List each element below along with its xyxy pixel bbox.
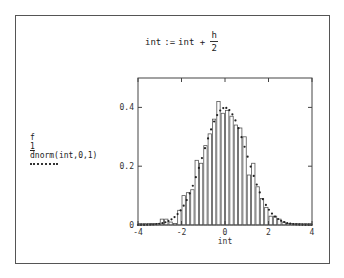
y-tick-label: 0	[129, 221, 134, 230]
curve-dot	[216, 114, 218, 116]
curve-dot	[201, 157, 203, 159]
curve-dot	[247, 156, 249, 158]
histogram-bar	[182, 196, 185, 225]
histogram-bar	[269, 216, 272, 225]
curve-dot	[222, 107, 224, 109]
curve-dot	[234, 119, 236, 121]
histogram-bar	[230, 116, 233, 225]
curve-dot	[231, 113, 233, 115]
curve-dot	[173, 216, 175, 218]
histogram-chart[interactable]: -4-202400.20.4 int	[0, 0, 344, 278]
curve-dot	[283, 221, 285, 223]
curve-dot	[170, 218, 172, 220]
histogram-bar	[234, 125, 237, 225]
curve-dot	[265, 204, 267, 206]
curve-dot	[161, 222, 163, 224]
chart-axes	[138, 78, 312, 225]
histogram-bar	[221, 113, 224, 225]
curve-dot	[186, 199, 188, 201]
histogram-bar	[260, 199, 263, 225]
histogram-bar	[208, 134, 211, 225]
histogram-bar	[247, 175, 250, 225]
histogram-bar	[191, 190, 194, 225]
curve-dot	[250, 165, 252, 167]
curve-dot	[176, 213, 178, 215]
x-tick-label: -2	[177, 228, 187, 237]
curve-dot	[268, 209, 270, 211]
histogram-bar	[252, 163, 255, 225]
curve-dot	[280, 220, 282, 222]
curve-dot	[210, 128, 212, 130]
histogram-bar	[186, 193, 189, 225]
y-tick-label: 0.4	[120, 103, 135, 112]
curve-dot	[189, 192, 191, 194]
x-tick-label: 2	[266, 228, 271, 237]
curve-dot	[271, 213, 273, 215]
histogram-bars	[139, 102, 312, 225]
curve-dot	[262, 198, 264, 200]
curve-dot	[164, 221, 166, 223]
histogram-bar	[226, 110, 229, 225]
x-tick-label: -4	[133, 228, 143, 237]
curve-dot	[289, 223, 291, 225]
x-tick-label: 0	[223, 228, 228, 237]
x-axis-label: int	[218, 237, 233, 246]
histogram-bar	[243, 137, 246, 225]
curve-dot	[277, 218, 279, 220]
curve-dot	[219, 109, 221, 111]
curve-dot	[237, 127, 239, 129]
curve-dot	[274, 216, 276, 218]
histogram-bar	[239, 128, 242, 225]
histogram-bar	[265, 207, 268, 225]
plot-area-border	[138, 78, 312, 225]
curve-dot	[207, 137, 209, 139]
histogram-bar	[178, 210, 181, 225]
curve-dot	[259, 191, 261, 193]
curve-dot	[167, 220, 169, 222]
histogram-bar	[217, 102, 220, 225]
curve-dot	[180, 209, 182, 211]
curve-dot	[253, 175, 255, 177]
curve-dot	[240, 136, 242, 138]
curve-dot	[198, 167, 200, 169]
curve-dot	[286, 222, 288, 224]
curve-dot	[195, 176, 197, 178]
curve-dot	[192, 185, 194, 187]
histogram-bar	[195, 160, 198, 225]
histogram-bar	[204, 146, 207, 225]
x-tick-label: 4	[310, 228, 315, 237]
y-tick-label: 0.2	[120, 162, 135, 171]
curve-dot	[225, 107, 227, 109]
curve-dot	[213, 120, 215, 122]
curve-dot	[183, 205, 185, 207]
histogram-bar	[212, 119, 215, 225]
histogram-bar	[199, 163, 202, 225]
curve-dot	[228, 109, 230, 111]
curve-dot	[256, 183, 258, 185]
curve-dot	[243, 146, 245, 148]
curve-dot	[204, 147, 206, 149]
